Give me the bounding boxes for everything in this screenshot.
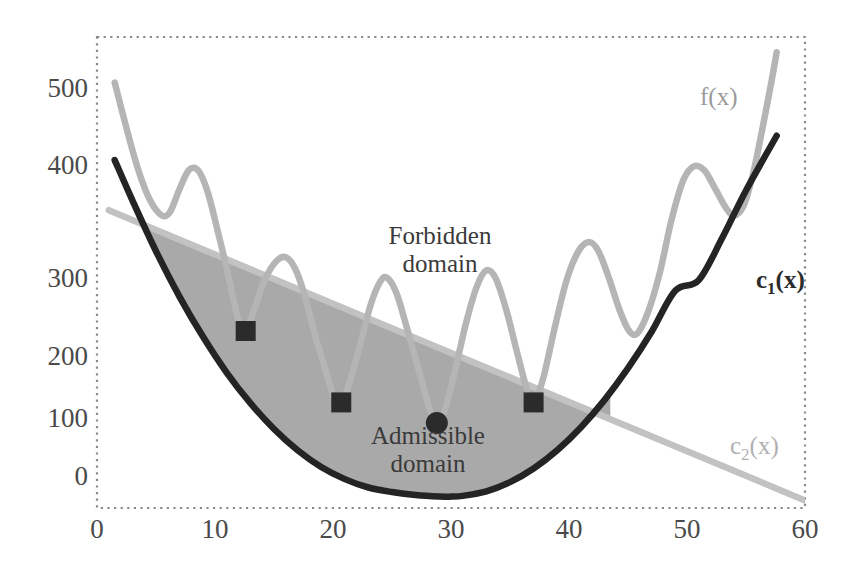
ytick-500: 500 bbox=[18, 75, 88, 102]
curve-label-c1-subscript: 1 bbox=[767, 279, 776, 298]
curve-label-c2-suffix: (x) bbox=[750, 432, 779, 459]
xtick-40: 40 bbox=[534, 516, 604, 543]
xtick-20: 20 bbox=[298, 516, 368, 543]
curve-label-c2-subscript: 2 bbox=[741, 445, 750, 464]
ytick-200: 200 bbox=[18, 343, 88, 370]
curve-label-c2: c2(x) bbox=[730, 433, 779, 463]
curve-label-c1-text: c bbox=[756, 266, 767, 293]
admissible-domain-label: Admissible domain bbox=[318, 422, 538, 478]
ytick-300: 300 bbox=[18, 265, 88, 292]
ytick-400: 400 bbox=[18, 152, 88, 179]
xtick-0: 0 bbox=[62, 516, 132, 543]
xtick-10: 10 bbox=[180, 516, 250, 543]
forbidden-domain-label: Forbidden domain bbox=[330, 222, 550, 278]
ytick-0: 0 bbox=[18, 463, 88, 490]
admissible-domain-line2: domain bbox=[318, 450, 538, 478]
curve-label-c1-suffix: (x) bbox=[776, 266, 805, 293]
forbidden-domain-line1: Forbidden bbox=[330, 222, 550, 250]
xtick-60: 60 bbox=[770, 516, 840, 543]
xtick-30: 30 bbox=[416, 516, 486, 543]
curve-label-c1: c1(x) bbox=[756, 267, 805, 297]
curve-label-f: f(x) bbox=[700, 84, 737, 109]
xtick-50: 50 bbox=[652, 516, 722, 543]
sample-point-3 bbox=[524, 392, 544, 412]
sample-point-1 bbox=[236, 321, 256, 341]
ytick-100: 100 bbox=[18, 405, 88, 432]
admissible-domain-line1: Admissible bbox=[318, 422, 538, 450]
chart-figure: 500 400 300 200 100 0 0 10 20 30 40 50 6… bbox=[0, 0, 853, 574]
forbidden-domain-line2: domain bbox=[330, 250, 550, 278]
curve-label-c2-text: c bbox=[730, 432, 741, 459]
sample-point-2 bbox=[331, 392, 351, 412]
